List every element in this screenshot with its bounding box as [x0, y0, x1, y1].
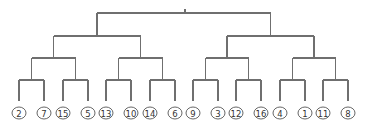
leaf-label: 8 — [345, 109, 350, 119]
leaf-label: 2 — [16, 109, 21, 119]
leaf-node: 3 — [211, 107, 225, 119]
leaf-label: 7 — [41, 109, 46, 119]
leaf-node: 14 — [143, 107, 157, 119]
leaf-node: 2 — [12, 107, 26, 119]
dendrogram-edges — [19, 9, 348, 101]
leaf-label: 15 — [58, 109, 69, 119]
leaf-label: 9 — [190, 109, 195, 119]
leaf-node: 6 — [168, 107, 182, 119]
leaf-node: 8 — [341, 107, 355, 119]
leaf-label: 12 — [231, 109, 242, 119]
leaf-node: 15 — [56, 107, 70, 119]
leaf-node: 9 — [186, 107, 200, 119]
leaf-node: 12 — [229, 107, 243, 119]
leaf-label: 3 — [215, 109, 220, 119]
leaf-node: 4 — [273, 107, 287, 119]
leaf-label: 4 — [277, 109, 282, 119]
leaf-node: 13 — [99, 107, 113, 119]
leaf-label: 13 — [101, 109, 112, 119]
leaf-label: 10 — [126, 109, 137, 119]
leaf-node: 7 — [37, 107, 51, 119]
leaf-label: 1 — [302, 109, 307, 119]
leaf-node: 5 — [81, 107, 95, 119]
leaf-node: 10 — [124, 107, 138, 119]
leaf-node: 1 — [298, 107, 312, 119]
leaf-label: 11 — [318, 109, 329, 119]
dendrogram: 27155131014693121641118 — [0, 0, 370, 131]
leaf-node: 16 — [254, 107, 268, 119]
leaf-label: 6 — [172, 109, 177, 119]
leaf-node: 11 — [316, 107, 330, 119]
leaf-label: 5 — [85, 109, 90, 119]
leaf-label: 16 — [256, 109, 267, 119]
dendrogram-leaves: 27155131014693121641118 — [12, 107, 355, 119]
leaf-label: 14 — [145, 109, 156, 119]
